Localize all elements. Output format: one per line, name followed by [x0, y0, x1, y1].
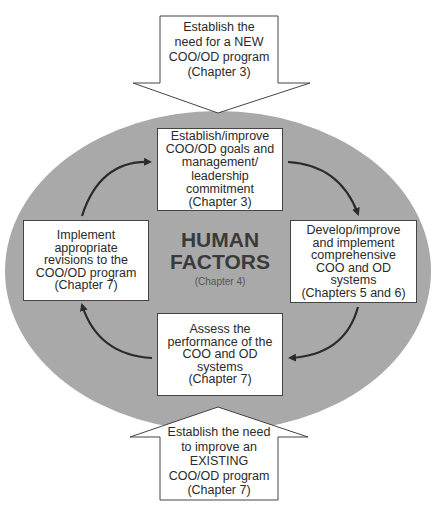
implement-revisions-box: Implement appropriate revisions to the C… — [23, 220, 149, 301]
box-line: COO and OD systems — [294, 262, 413, 287]
arrow-line: need for a NEW — [155, 35, 283, 50]
goals-commitment-box: Establish/improve COO/OD goals and manag… — [157, 128, 283, 211]
arrow-line: COO/OD program — [150, 469, 288, 484]
assess-performance-box: Assess the performance of the COO and OD… — [157, 313, 283, 396]
arrow-line: (Chapter 7) — [150, 483, 288, 498]
box-line: comprehensive — [294, 249, 413, 262]
box-line: management/ — [166, 156, 274, 169]
new-program-arrow-label: Establish the need for a NEW COO/OD prog… — [155, 20, 283, 80]
box-line: Establish/improve — [166, 130, 274, 143]
box-line: commitment — [166, 183, 274, 196]
box-line: Implement — [36, 229, 137, 242]
existing-program-arrow-label: Establish the need to improve an EXISTIN… — [150, 425, 288, 498]
box-line: Develop/improve — [294, 224, 413, 237]
box-line: COO/OD goals and — [166, 143, 274, 156]
arrow-line: Establish the need — [150, 425, 288, 440]
develop-systems-box: Develop/improve and implement comprehens… — [290, 220, 417, 303]
box-line: (Chapters 5 and 6) — [294, 287, 413, 300]
arrow-line: to improve an — [150, 440, 288, 455]
arrow-line: (Chapter 3) — [155, 65, 283, 80]
box-line: (Chapter 3) — [166, 196, 274, 209]
human-factors-title: HUMAN FACTORS — [150, 229, 290, 273]
arrow-line: Establish the — [155, 20, 283, 35]
title-line: FACTORS — [150, 251, 290, 273]
box-line: leadership — [166, 170, 274, 183]
title-line: HUMAN — [150, 229, 290, 251]
arrow-line: EXISTING — [150, 454, 288, 469]
box-line: revisions to the — [36, 254, 137, 267]
human-factors-subtitle: (Chapter 4) — [150, 276, 290, 287]
box-line: Assess the — [161, 323, 279, 336]
box-line: COO and OD systems — [161, 348, 279, 373]
arrow-line: COO/OD program — [155, 50, 283, 65]
box-line: (Chapter 7) — [161, 373, 279, 386]
box-line: (Chapter 7) — [36, 279, 137, 292]
